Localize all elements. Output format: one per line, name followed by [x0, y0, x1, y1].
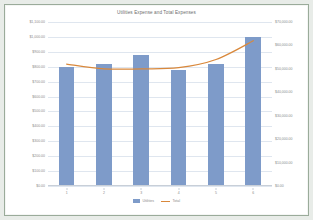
x-axis-tick-label: 1 [66, 191, 68, 195]
x-axis-tick-label: 5 [215, 191, 217, 195]
y-axis-right-tick: $50,000.00 [275, 67, 293, 71]
y-axis-left-tick: $400.00 [32, 124, 45, 128]
y-axis-right-tick: $0.00 [275, 184, 284, 188]
x-axis-tickmark [253, 188, 254, 190]
x-axis-tick-label: 2 [103, 191, 105, 195]
y-axis-right-tick: $60,000.00 [275, 43, 293, 47]
chart-canvas: Utilities Expense and Total Expenses $1,… [4, 4, 309, 216]
x-axis-tickmark [178, 188, 179, 190]
y-axis-left-tick: $800.00 [32, 65, 45, 69]
x-axis-tickmark [141, 188, 142, 190]
chart-frame: Utilities Expense and Total Expenses $1,… [0, 0, 313, 220]
y-axis-left-tick: $200.00 [32, 154, 45, 158]
chart-legend: Utilities Total [5, 199, 308, 203]
y-axis-left-tick: $600.00 [32, 95, 45, 99]
line-path [67, 41, 254, 70]
legend-line-icon [161, 201, 170, 202]
y-axis-right-tick: $10,000.00 [275, 161, 293, 165]
legend-item-total[interactable]: Total [161, 199, 180, 203]
x-axis-tickmark [66, 188, 67, 190]
x-axis-line [48, 185, 272, 186]
y-axis-left-tick: $300.00 [32, 139, 45, 143]
plot-area: $1,100.00$1,000.00$900.00$800.00$700.00$… [48, 22, 272, 186]
y-axis-right-tick: $30,000.00 [275, 114, 293, 118]
x-axis-tickmark [104, 188, 105, 190]
legend-swatch-icon [133, 199, 140, 203]
y-axis-right-tick: $70,000.00 [275, 20, 293, 24]
legend-item-utilities[interactable]: Utilities [133, 199, 154, 203]
y-axis-left-tick: $0.00 [36, 184, 45, 188]
y-axis-left-tick: $100.00 [32, 169, 45, 173]
x-axis-tick-label: 4 [178, 191, 180, 195]
x-axis-tick-label: 6 [252, 191, 254, 195]
y-axis-left-tick: $1,100.00 [29, 20, 45, 24]
x-axis-labels: 123456 [48, 188, 272, 196]
y-axis-left-tick: $700.00 [32, 80, 45, 84]
chart-title: Utilities Expense and Total Expenses [5, 10, 308, 15]
y-axis-left-tick: $500.00 [32, 109, 45, 113]
x-axis-tick-label: 3 [140, 191, 142, 195]
gridline [48, 186, 272, 187]
legend-label-utilities: Utilities [142, 199, 154, 203]
legend-label-total: Total [173, 199, 181, 203]
y-axis-right-tick: $40,000.00 [275, 90, 293, 94]
line-series-total [48, 22, 272, 186]
y-axis-left-tick: $900.00 [32, 50, 45, 54]
x-axis-tickmark [216, 188, 217, 190]
y-axis-right-tick: $20,000.00 [275, 137, 293, 141]
y-axis-left-tick: $1,000.00 [29, 35, 45, 39]
